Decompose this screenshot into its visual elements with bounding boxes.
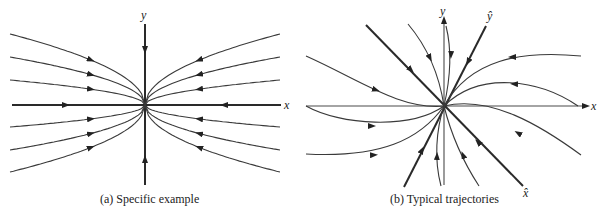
trajectory-5: [444, 54, 581, 106]
trajectory-right-3: [145, 105, 280, 127]
trajectory-left-3: [10, 105, 145, 127]
y-axis-label: y: [439, 4, 446, 18]
trajectory-left-0: [10, 34, 145, 105]
trajectory-6: [444, 83, 578, 106]
trajectory-right-2: [145, 80, 280, 105]
figure: y x (a) Specific example y x x̂ ŷ (b) Ty…: [0, 0, 604, 217]
trajectory-left-4: [10, 105, 145, 150]
trajectory-8: [437, 106, 444, 186]
panel-a: y x (a) Specific example: [10, 8, 290, 206]
trajectory-1: [306, 106, 444, 122]
x-axis-label: x: [590, 99, 597, 113]
y-hat-label: ŷ: [486, 9, 493, 23]
caption-a: (a) Specific example: [100, 192, 199, 206]
y-axis-label: y: [140, 8, 147, 22]
trajectory-right-5: [145, 105, 280, 172]
trajectory-left-2: [10, 80, 145, 105]
x-hat-label: x̂: [522, 186, 529, 200]
x-axis-label: x: [283, 98, 290, 112]
trajectory-0: [306, 56, 444, 106]
trajectory-left-5: [10, 105, 145, 172]
caption-b: (b) Typical trajectories: [390, 192, 499, 206]
trajectory-4: [444, 26, 450, 106]
arrow-7: [518, 133, 523, 136]
panel-b: y x x̂ ŷ (b) Typical trajectories: [306, 4, 597, 206]
trajectory-3: [408, 24, 444, 106]
trajectory-left-1: [10, 57, 145, 105]
trajectory-7: [444, 104, 581, 155]
trajectory-9: [444, 106, 479, 186]
trajectory-right-1: [145, 57, 280, 105]
trajectory-right-0: [145, 34, 280, 105]
trajectory-right-4: [145, 105, 280, 150]
